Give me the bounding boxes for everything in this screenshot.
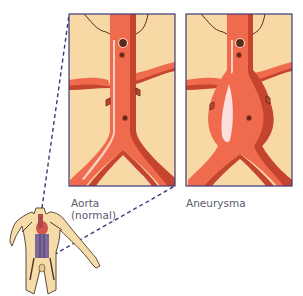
aneurysm-label: Aneurysma: [186, 197, 246, 209]
aneurysm-label-line1: Aneurysma: [186, 197, 246, 209]
normal-label-line2: (normal): [71, 209, 116, 221]
normal-aorta-panel: [69, 14, 175, 186]
aorta-aneurysm-diagram: Aorta (normal) Aneurysma: [0, 0, 303, 296]
normal-label-line1: Aorta: [71, 197, 116, 209]
aneurysm-panel: [186, 14, 292, 186]
normal-aorta-label: Aorta (normal): [71, 197, 116, 221]
